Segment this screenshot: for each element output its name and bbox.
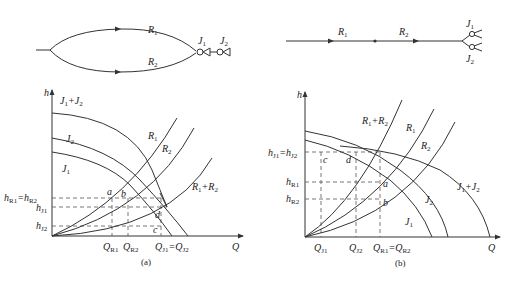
- x-tick-qj1: QJ1: [314, 242, 328, 255]
- label-j1-plus-j2: J1+J2: [457, 181, 480, 194]
- pump-icon: [469, 30, 482, 38]
- series-pipe-network: R1 R2 J1 J2: [286, 18, 482, 66]
- y-tick-hj1: hJ1: [36, 202, 48, 215]
- label-j1: J1: [405, 216, 413, 229]
- point-b: b: [383, 197, 388, 208]
- label-j1: J1: [62, 163, 70, 176]
- x-tick-qr2: QR2: [123, 241, 139, 254]
- pump-icon: [469, 43, 482, 51]
- pipe-label-r2: R2: [398, 26, 409, 39]
- pipe-label-r2: R2: [147, 56, 158, 69]
- curve-r1-plus-r2: [52, 158, 212, 236]
- chart-panel-b: h Q R1+R2 R1 R2 J1+J2 J2 J1 hJ1=hJ2 hR1 …: [268, 89, 500, 268]
- pump-label-j1: J1: [198, 35, 206, 48]
- x-tick-qj1-qj2: QJ1=QJ2: [155, 241, 189, 254]
- caption-b: (b): [395, 258, 406, 268]
- x-tick-qr1: QR1: [103, 241, 119, 254]
- pump-label-j2: J2: [466, 53, 474, 66]
- label-r2: R2: [161, 143, 172, 156]
- label-j2: J2: [425, 194, 433, 207]
- x-tick-qj2: QJ2: [349, 242, 363, 255]
- label-r1: R1: [405, 122, 416, 135]
- label-r1-plus-r2: R1+R2: [361, 115, 388, 128]
- point-d: d: [155, 209, 161, 220]
- y-tick-hj2: hJ2: [36, 220, 48, 233]
- diagram-canvas: R1 R2 J1 J2 R1 R2: [0, 0, 516, 282]
- point-c: c: [323, 154, 328, 165]
- label-j1-plus-j2: J1+J2: [60, 95, 83, 108]
- caption-a: (a): [141, 257, 151, 267]
- pipe-label-r1: R1: [147, 24, 158, 37]
- point-b: b: [121, 188, 126, 199]
- chart-panel-a: h Q J1+J2 J2 J1 R1 R2 R1+R2 hR1=hR2 hJ1 …: [4, 87, 243, 267]
- pipe-r1: [50, 29, 196, 51]
- x-axis-label: Q: [232, 241, 240, 252]
- label-j2: J2: [66, 133, 74, 146]
- point-a: a: [107, 186, 112, 197]
- label-r1-plus-r2: R1+R2: [191, 181, 218, 194]
- pump-label-j2: J2: [220, 35, 228, 48]
- y-tick-hj1-hj2: hJ1=hJ2: [268, 147, 298, 160]
- label-r2: R2: [420, 140, 431, 153]
- y-tick-hr1: hR1: [286, 176, 300, 189]
- y-axis-label: h: [297, 89, 302, 100]
- point-c: c: [153, 224, 158, 235]
- flow-arrow-icon: [115, 27, 121, 32]
- flow-arrow-icon: [115, 70, 121, 75]
- label-r1: R1: [147, 130, 158, 143]
- pump-label-j1: J1: [466, 18, 474, 31]
- pump-icon: [197, 48, 210, 56]
- junction-node: [373, 39, 376, 42]
- flow-arrow-icon: [328, 39, 334, 44]
- flow-arrow-icon: [413, 39, 419, 44]
- pipe-r2: [50, 50, 196, 72]
- pipe-label-r1: R1: [337, 26, 348, 39]
- parallel-pipe-network: R1 R2 J1 J2: [36, 24, 230, 75]
- y-axis-label: h: [44, 87, 49, 98]
- x-axis-label: Q: [488, 242, 496, 253]
- x-tick-qr1-qr2: QR1=QR2: [373, 242, 411, 255]
- point-a: a: [383, 178, 388, 189]
- y-tick-hr2: hR2: [286, 193, 300, 206]
- y-tick-hr1-hr2: hR1=hR2: [4, 192, 38, 205]
- curve-r2: [305, 122, 455, 237]
- pump-icon: [217, 48, 230, 56]
